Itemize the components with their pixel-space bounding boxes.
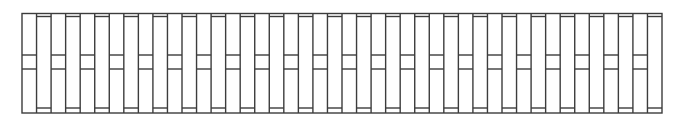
column-b bbox=[153, 14, 168, 114]
column-a bbox=[80, 14, 95, 114]
column-a bbox=[284, 14, 299, 114]
column-a bbox=[167, 14, 182, 114]
column-a bbox=[22, 14, 37, 114]
column-b bbox=[240, 14, 255, 114]
column-b bbox=[357, 14, 372, 114]
column-b bbox=[124, 14, 139, 114]
column-b bbox=[618, 14, 633, 114]
column-b bbox=[269, 14, 284, 114]
column-a bbox=[458, 14, 473, 114]
columns-group bbox=[22, 14, 662, 114]
column-b bbox=[415, 14, 430, 114]
column-a bbox=[255, 14, 270, 114]
column-b bbox=[298, 14, 313, 114]
column-b bbox=[37, 14, 52, 114]
column-a bbox=[546, 14, 561, 114]
column-b bbox=[560, 14, 575, 114]
column-a bbox=[226, 14, 241, 114]
column-a bbox=[575, 14, 590, 114]
column-pattern-diagram bbox=[0, 0, 685, 128]
column-b bbox=[502, 14, 517, 114]
column-b bbox=[589, 14, 604, 114]
column-a bbox=[197, 14, 212, 114]
column-a bbox=[313, 14, 328, 114]
column-a bbox=[604, 14, 619, 114]
column-b bbox=[211, 14, 226, 114]
column-a bbox=[109, 14, 124, 114]
column-b bbox=[444, 14, 459, 114]
column-a bbox=[371, 14, 386, 114]
column-b bbox=[473, 14, 488, 114]
column-b bbox=[327, 14, 342, 114]
column-b bbox=[66, 14, 81, 114]
column-a bbox=[51, 14, 66, 114]
column-b bbox=[182, 14, 197, 114]
column-b bbox=[531, 14, 546, 114]
column-a bbox=[633, 14, 648, 114]
column-b bbox=[95, 14, 110, 114]
column-b bbox=[647, 17, 662, 109]
column-a bbox=[487, 14, 502, 114]
column-a bbox=[517, 14, 532, 114]
column-a bbox=[400, 14, 415, 114]
column-a bbox=[342, 14, 357, 114]
column-b bbox=[386, 14, 401, 114]
column-a bbox=[429, 14, 444, 114]
column-a bbox=[138, 14, 153, 114]
